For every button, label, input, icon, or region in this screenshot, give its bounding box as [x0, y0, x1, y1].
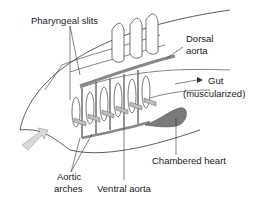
label-gut-line2: (muscularized): [183, 88, 245, 99]
label-dorsal-aorta-line2: aorta: [186, 45, 208, 56]
label-aortic-arches-line2: arches: [54, 183, 83, 194]
chambered-heart-shape: [145, 108, 186, 127]
label-dorsal-aorta-line1: Dorsal: [186, 33, 213, 44]
label-gut-line1: Gut: [208, 75, 223, 86]
label-aortic-arches-line1: Aortic: [57, 171, 81, 182]
label-pharyngeal-slits: Pharyngeal slits: [31, 15, 98, 26]
label-ventral-aorta: Ventral aorta: [97, 183, 151, 194]
gut-arrowhead-icon: [197, 77, 203, 83]
vertebrae: [112, 14, 158, 62]
inflow-arrow: [22, 128, 48, 150]
ventral-aorta-vessel: [82, 122, 150, 138]
label-chambered-heart: Chambered heart: [152, 155, 226, 166]
diagram-illustration: [0, 0, 263, 201]
